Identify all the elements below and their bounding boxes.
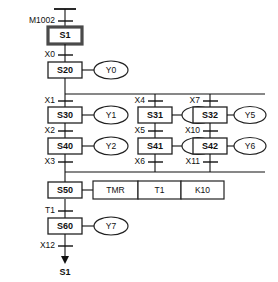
coil-label-y6: Y6 [245, 141, 256, 151]
coil-label-y0: Y0 [106, 65, 117, 75]
step-label-s31: S31 [147, 110, 163, 120]
transition-label-x12: X12 [40, 240, 55, 250]
transition-label-x11: X11 [186, 156, 201, 166]
step-label-s42: S42 [202, 141, 218, 151]
instruction-label-k10: K10 [195, 185, 210, 195]
coil-label-y2: Y2 [106, 141, 117, 151]
coil-label-y7: Y7 [106, 221, 117, 231]
step-label-s30: S30 [57, 110, 73, 120]
step-label-s41: S41 [147, 141, 163, 151]
transition-label-x2: X2 [45, 125, 56, 135]
transition-label-x10: X10 [185, 125, 200, 135]
return-arrow-icon [61, 256, 69, 264]
transition-label-x1: X1 [45, 95, 56, 105]
transition-label-x0: X0 [45, 49, 56, 59]
step-label-s40: S40 [57, 141, 73, 151]
step-label-s32: S32 [202, 110, 218, 120]
return-target-label-s1: S1 [59, 267, 70, 277]
transition-label-x5: X5 [135, 125, 146, 135]
instruction-label-tmr: TMR [106, 185, 124, 195]
coil-label-y1: Y1 [106, 110, 117, 120]
sfc-diagram: M1002 S1 X0 S20 Y0 X1 S30 Y1 X2 S40 Y2 X… [0, 0, 278, 282]
step-label-s60: S60 [57, 221, 73, 231]
transition-label-x4: X4 [135, 95, 146, 105]
step-label-s20: S20 [57, 65, 73, 75]
transition-label-x3: X3 [45, 156, 56, 166]
transition-label-t1: T1 [45, 205, 55, 215]
transition-label-x6: X6 [135, 156, 146, 166]
coil-label-y5: Y5 [245, 110, 256, 120]
instruction-label-t1: T1 [155, 185, 165, 195]
transition-label-m1002: M1002 [29, 15, 55, 25]
step-label-s50: S50 [57, 185, 73, 195]
transition-label-x7: X7 [190, 95, 201, 105]
step-label-s1-initial: S1 [59, 30, 70, 40]
